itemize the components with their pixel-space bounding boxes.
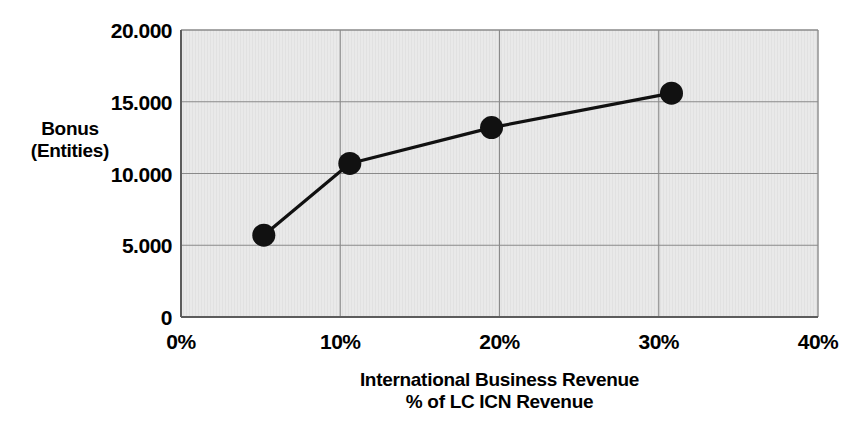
data-point-marker <box>660 82 683 105</box>
data-point-marker <box>252 224 275 247</box>
x-axis-title-line-1: International Business Revenue <box>181 369 818 391</box>
x-axis-title-line-2: % of LC ICN Revenue <box>181 391 818 413</box>
x-axis-tick-label: 40% <box>773 330 862 354</box>
x-axis-title: International Business Revenue % of LC I… <box>181 369 818 413</box>
x-axis-tick-label: 0% <box>136 330 226 354</box>
x-axis-tick-labels: 0%10%20%30%40% <box>0 330 862 360</box>
data-point-marker <box>480 116 503 139</box>
x-axis-tick-label: 30% <box>614 330 704 354</box>
data-point-marker <box>338 152 361 175</box>
chart-figure: Bonus (Entities) 05.00010.00015.00020.00… <box>0 0 862 436</box>
x-axis-tick-label: 20% <box>455 330 545 354</box>
x-axis-tick-label: 10% <box>295 330 385 354</box>
